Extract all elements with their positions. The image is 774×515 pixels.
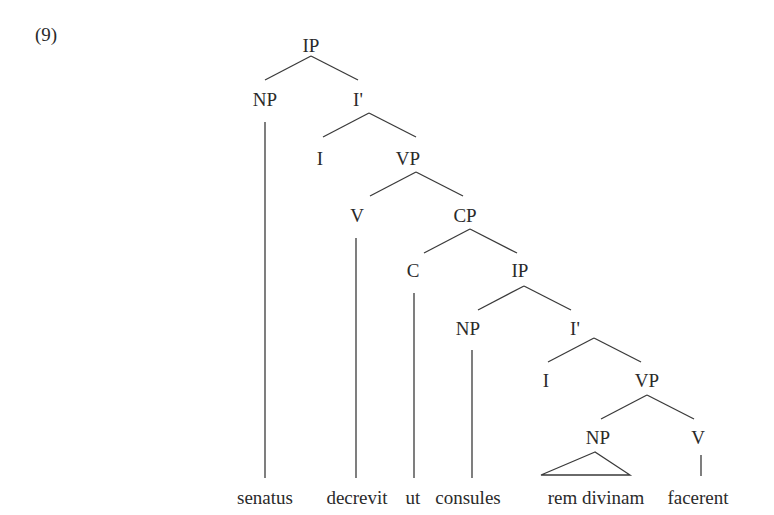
tree-branch [370,172,416,196]
tree-branch [594,338,641,362]
w-rem-divinam: rem divinam [548,487,645,508]
tree-branch [548,338,594,362]
node-v2: V [691,427,705,448]
tree-branch [470,229,517,253]
node-vp2: VP [635,370,659,391]
tree-branch [424,229,470,253]
node-np3: NP [586,427,610,448]
w-facerent: facerent [667,487,729,508]
w-ut: ut [406,487,422,508]
syntax-tree: IPNPI'IVPVCPCIPNPI'IVPNPV senatusdecrevi… [0,0,774,515]
tree-branch [265,56,311,80]
tree-branch [369,113,416,137]
node-ip1: IP [303,35,320,56]
node-i1: I [317,148,323,169]
w-decrevit: decrevit [326,487,388,508]
tree-branch [478,286,524,310]
tree-branch [311,56,358,80]
tree-branch [647,395,694,419]
tree-node-labels: IPNPI'IVPVCPCIPNPI'IVPNPV [253,35,705,448]
node-cp1: CP [453,205,476,226]
node-ip2: IP [512,260,529,281]
node-vp1: VP [396,148,420,169]
tree-branch [601,395,647,419]
node-i2: I [543,370,549,391]
node-np1: NP [253,89,277,110]
tree-branches [265,56,701,478]
w-senatus: senatus [237,487,293,508]
np-triangle [541,452,630,475]
node-ibar1: I' [353,89,363,110]
w-consules: consules [435,487,500,508]
node-ibar2: I' [570,318,580,339]
tree-branch [524,286,571,310]
node-np2: NP [456,318,480,339]
tree-branch [416,172,463,196]
tree-branch [323,113,369,137]
node-c1: C [407,260,420,281]
node-v1: V [350,205,364,226]
terminal-words: senatusdecrevitutconsulesrem divinamface… [237,487,729,508]
